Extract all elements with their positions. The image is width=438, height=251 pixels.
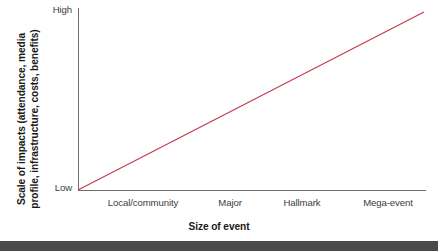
footer-band: [0, 241, 438, 251]
x-axis-title: Size of event: [0, 221, 438, 232]
plot-area: [0, 0, 438, 251]
x-axis-tick-mega-event: Mega-event: [333, 197, 438, 208]
trend-line: [78, 12, 424, 190]
chart-figure: Scale of impacts (attendance, media prof…: [0, 0, 438, 251]
